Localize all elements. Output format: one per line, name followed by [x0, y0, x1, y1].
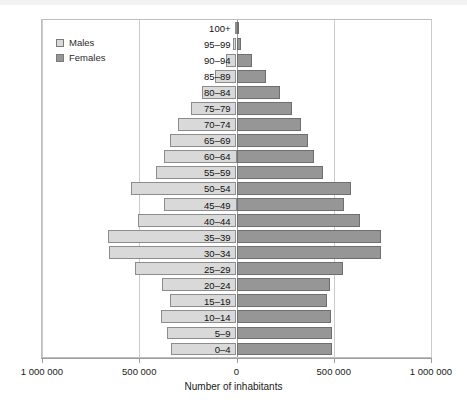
pyramid-row: 50–54 [42, 182, 431, 195]
x-tick-1 [139, 358, 140, 363]
population-pyramid-figure: 100+95–9990–9485–8980–8475–7970–7465–696… [0, 5, 467, 414]
pyramid-row: 20–24 [42, 278, 431, 291]
pyramid-row: 55–59 [42, 166, 431, 179]
x-axis: 1 000 000500 0000500 0001 000 000 [41, 358, 432, 359]
age-group-label: 30–34 [204, 247, 230, 258]
bar-female-7074 [237, 118, 301, 131]
x-tick-label-4: 1 000 000 [410, 366, 452, 377]
bar-rows: 100+95–9990–9485–8980–8475–7970–7465–696… [42, 20, 431, 357]
legend-swatch-males-icon [56, 39, 64, 47]
age-group-label: 45–49 [204, 199, 230, 210]
age-group-label: 0–4 [215, 343, 231, 354]
x-axis-title: Number of inhabitants [0, 381, 467, 392]
legend-label-females: Females [69, 51, 105, 64]
pyramid-row: 10–14 [42, 310, 431, 323]
age-group-label: 90–94 [204, 55, 230, 66]
bar-female-1519 [237, 294, 327, 307]
pyramid-row: 65–69 [42, 134, 431, 147]
legend-item-females: Females [56, 51, 105, 64]
age-group-label: 95–99 [204, 39, 230, 50]
bar-female-2024 [237, 278, 330, 291]
age-group-label: 80–84 [204, 87, 230, 98]
legend-item-males: Males [56, 36, 105, 49]
x-tick-3 [334, 358, 335, 363]
chart-legend: Males Females [56, 36, 105, 66]
pyramid-row: 40–44 [42, 214, 431, 227]
bar-female-5054 [237, 182, 352, 195]
age-group-label: 50–54 [204, 183, 230, 194]
pyramid-row: 5–9 [42, 327, 431, 340]
bar-female-6569 [237, 134, 309, 147]
bar-female-2529 [237, 262, 343, 275]
age-group-label: 5–9 [215, 327, 231, 338]
gridline-4 [431, 20, 432, 357]
pyramid-row: 30–34 [42, 246, 431, 259]
age-group-label: 35–39 [204, 231, 230, 242]
bar-female-4044 [237, 214, 361, 227]
bar-female-59 [237, 327, 332, 340]
bar-female-6064 [237, 150, 315, 163]
bar-female-8084 [237, 86, 281, 99]
age-group-label: 40–44 [204, 215, 230, 226]
pyramid-row: 60–64 [42, 150, 431, 163]
legend-label-males: Males [69, 36, 94, 49]
plot-area: 100+95–9990–9485–8980–8475–7970–7465–696… [41, 19, 432, 358]
bar-female-8589 [237, 70, 266, 83]
pyramid-row: 15–19 [42, 294, 431, 307]
age-group-label: 20–24 [204, 279, 230, 290]
age-group-label: 100+ [209, 23, 230, 34]
pyramid-row: 25–29 [42, 262, 431, 275]
legend-swatch-females-icon [56, 54, 64, 62]
age-group-label: 55–59 [204, 167, 230, 178]
pyramid-row: 85–89 [42, 70, 431, 83]
x-tick-0 [42, 358, 43, 363]
bar-female-9599 [237, 38, 242, 51]
bar-female-1014 [237, 310, 331, 323]
bar-female-100+ [237, 22, 239, 35]
age-group-label: 25–29 [204, 263, 230, 274]
x-tick-label-1: 500 000 [122, 366, 156, 377]
age-group-label: 85–89 [204, 71, 230, 82]
age-group-label: 15–19 [204, 295, 230, 306]
age-group-label: 10–14 [204, 311, 230, 322]
pyramid-row: 100+ [42, 22, 431, 35]
x-tick-4 [431, 358, 432, 363]
x-tick-label-0: 1 000 000 [21, 366, 63, 377]
x-tick-2 [237, 358, 238, 363]
bar-female-4549 [237, 198, 345, 211]
bar-female-3539 [237, 230, 382, 243]
bar-female-04 [237, 343, 332, 356]
pyramid-row: 45–49 [42, 198, 431, 211]
bar-female-3034 [237, 246, 382, 259]
x-tick-label-3: 500 000 [317, 366, 351, 377]
age-group-label: 75–79 [204, 103, 230, 114]
pyramid-row: 70–74 [42, 118, 431, 131]
bar-female-5559 [237, 166, 324, 179]
pyramid-row: 80–84 [42, 86, 431, 99]
pyramid-row: 0–4 [42, 343, 431, 356]
bar-female-9094 [237, 54, 253, 67]
x-tick-label-2: 0 [234, 366, 239, 377]
bar-female-7579 [237, 102, 292, 115]
pyramid-row: 75–79 [42, 102, 431, 115]
pyramid-row: 35–39 [42, 230, 431, 243]
age-group-label: 60–64 [204, 151, 230, 162]
age-group-label: 70–74 [204, 119, 230, 130]
age-group-label: 65–69 [204, 135, 230, 146]
